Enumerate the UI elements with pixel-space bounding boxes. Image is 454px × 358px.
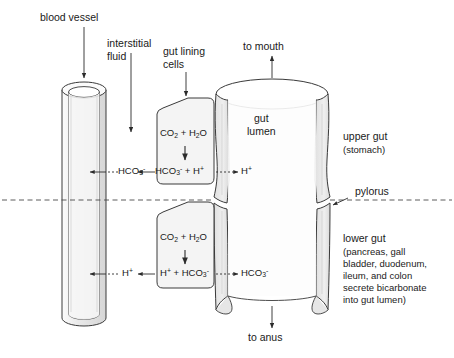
label-interstitial-fluid-line2: fluid — [107, 51, 126, 63]
label-lower-gut-detail-line1: (pancreas, gall — [343, 247, 405, 258]
diagram-root: blood vessel interstitial fluid gut lini… — [0, 0, 454, 358]
label-lower-gut: lower gut — [343, 233, 386, 245]
label-gut-lumen-line2: lumen — [247, 126, 276, 138]
lower-blood-species: H+ — [122, 267, 133, 278]
label-to-anus: to anus — [248, 332, 282, 344]
label-lower-gut-detail-line3: ileum, and colon — [343, 271, 412, 282]
upper-cell-products: HCO3- + H+ — [155, 165, 204, 177]
lower-cell-products: H+ + HCO3- — [160, 267, 209, 279]
label-pylorus: pylorus — [355, 186, 389, 198]
label-lower-gut-detail-line2: bladder, duodenum, — [343, 259, 427, 270]
label-gut-lining-cells-line2: cells — [163, 59, 184, 71]
upper-blood-species: HCO3- — [118, 165, 145, 177]
label-lower-gut-detail-line4: secrete bicarbonate — [343, 283, 426, 294]
label-to-mouth: to mouth — [243, 41, 284, 53]
upper-lumen-species: H+ — [241, 165, 252, 176]
lower-cell-reactants: CO2 + H2O — [160, 232, 207, 243]
label-gut-lumen-line1: gut — [254, 113, 269, 125]
label-interstitial-fluid-line1: interstitial — [107, 38, 151, 50]
label-upper-gut: upper gut — [343, 131, 387, 143]
upper-cell-reactants: CO2 + H2O — [160, 128, 207, 139]
label-lower-gut-detail-line5: into gut lumen) — [343, 295, 406, 306]
gut-tube-shape — [214, 79, 330, 314]
label-gut-lining-cells-line1: gut lining — [163, 46, 205, 58]
blood-vessel-shape — [62, 82, 106, 326]
label-blood-vessel: blood vessel — [40, 12, 98, 24]
lower-lumen-species: HCO3- — [241, 267, 268, 279]
label-upper-gut-detail: (stomach) — [343, 145, 385, 156]
